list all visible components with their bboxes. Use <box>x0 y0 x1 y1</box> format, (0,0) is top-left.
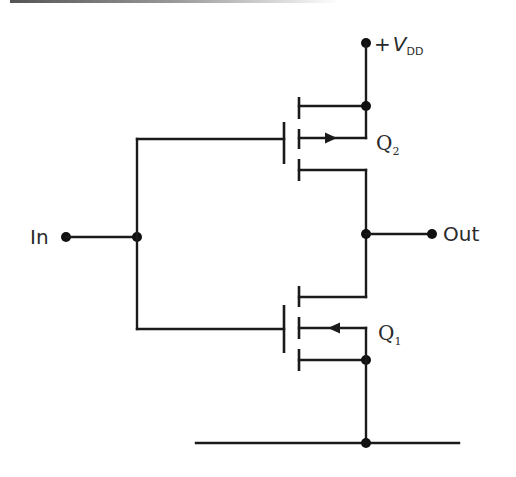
q2-label: Q2 <box>376 131 399 158</box>
ground-rail <box>196 328 459 448</box>
input-label: In <box>30 225 49 249</box>
q2-arrow-icon <box>325 133 337 144</box>
top-border <box>10 0 340 3</box>
transistor-q2-pmos: Q2 <box>284 97 399 181</box>
cmos-inverter-schematic: +VDD Q2 Q1 Out <box>0 0 516 477</box>
transistor-q1-nmos: Q1 <box>284 286 401 371</box>
q1-label: Q1 <box>378 321 401 348</box>
vdd-label: +VDD <box>374 32 423 58</box>
input-net: In <box>30 139 284 329</box>
output-terminal <box>427 229 437 239</box>
output-label: Out <box>443 222 479 246</box>
q1-arrow-icon <box>328 323 340 334</box>
vdd-supply: +VDD <box>361 32 423 106</box>
output-net: Out <box>361 170 479 297</box>
